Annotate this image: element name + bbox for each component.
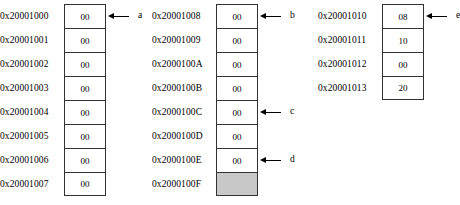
- memory-cell: 00: [64, 100, 106, 124]
- pointer-label: b: [290, 11, 295, 21]
- memory-cell: 00: [64, 28, 106, 52]
- address-label: 0x20001012: [318, 52, 382, 76]
- memory-cell: 00: [216, 124, 258, 148]
- memory-cell-shaded: [216, 172, 258, 196]
- memory-cell: 00: [216, 76, 258, 100]
- memory-row: 0x2000100F: [152, 172, 258, 196]
- address-label: 0x20001002: [0, 52, 64, 76]
- memory-cell: 00: [216, 4, 258, 28]
- arrow-line: [266, 112, 281, 113]
- memory-cell: 00: [382, 52, 424, 76]
- memory-row: 0x2000101200: [318, 52, 424, 76]
- memory-row: 0x2000100100: [0, 28, 106, 52]
- pointer-label: e: [456, 11, 460, 21]
- memory-row: 0x2000100C00c: [152, 100, 258, 124]
- memory-row: 0x2000101320: [318, 76, 424, 100]
- address-label: 0x2000100D: [152, 124, 216, 148]
- address-label: 0x20001007: [0, 172, 64, 196]
- address-label: 0x20001011: [318, 28, 382, 52]
- address-label: 0x2000100C: [152, 100, 216, 124]
- memory-row: 0x2000101008e: [318, 4, 424, 28]
- memory-row: 0x2000100700: [0, 172, 106, 196]
- memory-cell: 00: [216, 28, 258, 52]
- memory-column-1: 0x2000100000a0x20001001000x20001002000x2…: [0, 4, 106, 196]
- arrow-line: [266, 16, 281, 17]
- pointer-annotation: b: [260, 4, 295, 28]
- address-label: 0x20001013: [318, 76, 382, 100]
- arrow-line: [114, 16, 129, 17]
- memory-row: 0x2000100600: [0, 148, 106, 172]
- address-label: 0x20001001: [0, 28, 64, 52]
- memory-cell: 00: [216, 100, 258, 124]
- memory-cell: 00: [64, 172, 106, 196]
- memory-column-2: 0x2000100800b0x20001009000x2000100A000x2…: [152, 4, 258, 196]
- arrow-line: [432, 16, 447, 17]
- address-label: 0x20001010: [318, 4, 382, 28]
- pointer-annotation: d: [260, 148, 295, 172]
- memory-cell: 00: [64, 124, 106, 148]
- arrow-line: [266, 160, 281, 161]
- memory-cell: 20: [382, 76, 424, 100]
- memory-row: 0x2000100D00: [152, 124, 258, 148]
- memory-row: 0x2000100500: [0, 124, 106, 148]
- address-label: 0x20001005: [0, 124, 64, 148]
- memory-cell: 00: [216, 52, 258, 76]
- memory-row: 0x2000100000a: [0, 4, 106, 28]
- pointer-annotation: e: [426, 4, 460, 28]
- memory-row: 0x2000100B00: [152, 76, 258, 100]
- address-label: 0x20001006: [0, 148, 64, 172]
- memory-cell: 10: [382, 28, 424, 52]
- memory-row: 0x2000100E00d: [152, 148, 258, 172]
- address-label: 0x20001004: [0, 100, 64, 124]
- memory-row: 0x2000100800b: [152, 4, 258, 28]
- memory-cell: 00: [64, 52, 106, 76]
- address-label: 0x2000100A: [152, 52, 216, 76]
- pointer-annotation: a: [108, 4, 142, 28]
- memory-row: 0x2000100A00: [152, 52, 258, 76]
- address-label: 0x20001003: [0, 76, 64, 100]
- pointer-label: c: [290, 107, 294, 117]
- memory-row: 0x2000100900: [152, 28, 258, 52]
- memory-column-3: 0x2000101008e0x20001011100x20001012000x2…: [318, 4, 424, 100]
- address-label: 0x2000100F: [152, 172, 216, 196]
- pointer-annotation: c: [260, 100, 294, 124]
- pointer-label: d: [290, 155, 295, 165]
- memory-cell: 00: [216, 148, 258, 172]
- address-label: 0x2000100E: [152, 148, 216, 172]
- memory-cell: 00: [64, 148, 106, 172]
- memory-cell: 00: [64, 4, 106, 28]
- address-label: 0x20001009: [152, 28, 216, 52]
- memory-row: 0x2000100200: [0, 52, 106, 76]
- pointer-label: a: [138, 11, 142, 21]
- address-label: 0x20001008: [152, 4, 216, 28]
- memory-cell: 08: [382, 4, 424, 28]
- memory-row: 0x2000100300: [0, 76, 106, 100]
- address-label: 0x20001000: [0, 4, 64, 28]
- memory-row: 0x2000101110: [318, 28, 424, 52]
- address-label: 0x2000100B: [152, 76, 216, 100]
- memory-row: 0x2000100400: [0, 100, 106, 124]
- memory-cell: 00: [64, 76, 106, 100]
